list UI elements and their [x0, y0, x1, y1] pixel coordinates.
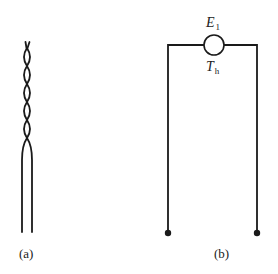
right-terminal-dot [254, 230, 260, 236]
emf-symbol: E [206, 15, 215, 30]
diagram-canvas [0, 0, 278, 274]
junction-source-icon [204, 35, 224, 55]
left-terminal-dot [165, 230, 171, 236]
twisted-pair-wires [22, 42, 32, 232]
temperature-label: Th [206, 60, 219, 76]
temperature-symbol: T [206, 59, 214, 74]
emf-label: E1 [206, 16, 220, 32]
emf-subscript: 1 [216, 22, 221, 32]
panel-a-caption: (a) [19, 247, 33, 260]
temperature-subscript: h [215, 66, 220, 76]
panel-b-caption: (b) [214, 247, 229, 260]
